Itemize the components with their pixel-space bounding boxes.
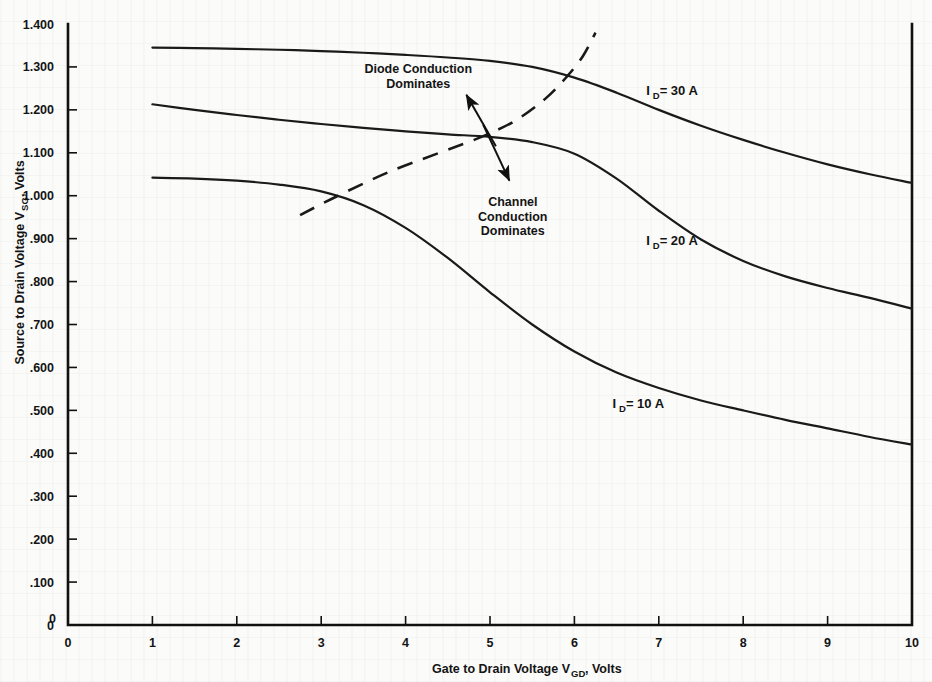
- series-label-tail: = 10 A: [626, 396, 665, 411]
- y-tick-label-12: 1.200: [23, 103, 54, 117]
- x-tick-label-8: 8: [740, 636, 747, 650]
- x-tick-label-3: 3: [318, 636, 325, 650]
- diode-conduction-annotation-line-1: Diode Conduction: [364, 62, 472, 76]
- series-label-sub: D: [653, 90, 660, 101]
- boundary-layer: [300, 33, 595, 215]
- x-tick-label-1: 1: [149, 636, 156, 650]
- tick-labels-layer: 0.100.200.300.400.500.600.700.800.9001.0…: [23, 18, 919, 651]
- series-label-10a: ID = 10 A: [612, 396, 664, 414]
- x-axis-title-sub: GD: [571, 668, 585, 679]
- y-axis-title-tail: , Volts: [13, 160, 27, 197]
- y-tick-label-13: 1.300: [23, 60, 54, 74]
- channel-conduction-annotation-line-3: Dominates: [481, 224, 545, 238]
- y-tick-label-9: .900: [30, 232, 54, 246]
- y-tick-label-11: 1.100: [23, 146, 54, 160]
- series-label-20a: ID = 20 A: [646, 233, 698, 251]
- y-tick-label-1: .100: [30, 576, 54, 590]
- origin-zero-label: 0: [49, 612, 56, 626]
- x-tick-label-4: 4: [402, 636, 409, 650]
- x-tick-label-7: 7: [655, 636, 662, 650]
- series-label-30a: ID = 30 A: [646, 83, 698, 101]
- channel-conduction-annotation-arrow: [483, 125, 509, 181]
- plot-frame: [68, 24, 912, 625]
- axes-layer: [68, 24, 912, 625]
- channel-conduction-annotation-line-1: Channel: [488, 195, 537, 209]
- x-axis-title: Gate to Drain Voltage VGD, Volts: [432, 662, 622, 679]
- x-tick-label-5: 5: [487, 636, 494, 650]
- y-tick-label-8: .800: [30, 275, 54, 289]
- series-label-main: I: [646, 83, 650, 98]
- x-tick-label-10: 10: [905, 636, 919, 650]
- x-axis-title-tail: , Volts: [585, 662, 622, 676]
- curves-layer: ID = 30 AID = 20 AID = 10 A: [152, 48, 912, 445]
- x-tick-label-2: 2: [233, 636, 240, 650]
- channel-conduction-annotation-line-2: Conduction: [478, 210, 547, 224]
- y-tick-label-2: .200: [30, 533, 54, 547]
- y-axis-title-sub: SG: [19, 197, 30, 211]
- x-tick-label-9: 9: [824, 636, 831, 650]
- annotations-layer: Diode ConductionDominatesChannelConducti…: [364, 62, 547, 238]
- x-tick-label-6: 6: [571, 636, 578, 650]
- series-label-main: I: [646, 233, 650, 248]
- y-tick-label-14: 1.400: [23, 18, 54, 32]
- series-label-tail: = 20 A: [660, 233, 699, 248]
- series-curve-30a: [152, 48, 912, 183]
- y-axis-title-main: Source to Drain Voltage V: [13, 211, 27, 364]
- conduction-boundary: [300, 33, 595, 215]
- y-tick-label-7: .700: [30, 318, 54, 332]
- diode-conduction-annotation-line-2: Dominates: [386, 77, 450, 91]
- y-tick-label-5: .500: [30, 404, 54, 418]
- series-label-sub: D: [653, 240, 660, 251]
- x-tick-label-0: 0: [65, 636, 72, 650]
- chart-figure: 0.100.200.300.400.500.600.700.800.9001.0…: [0, 0, 932, 682]
- y-tick-label-4: .400: [30, 447, 54, 461]
- y-tick-label-6: .600: [30, 361, 54, 375]
- source-to-drain-voltage-chart: 0.100.200.300.400.500.600.700.800.9001.0…: [0, 0, 932, 682]
- series-label-tail: = 30 A: [660, 83, 699, 98]
- diode-conduction-annotation-arrow: [466, 95, 496, 147]
- x-axis-title-main: Gate to Drain Voltage V: [432, 662, 571, 676]
- series-label-main: I: [612, 396, 616, 411]
- series-label-sub: D: [619, 403, 626, 414]
- y-tick-label-3: .300: [30, 490, 54, 504]
